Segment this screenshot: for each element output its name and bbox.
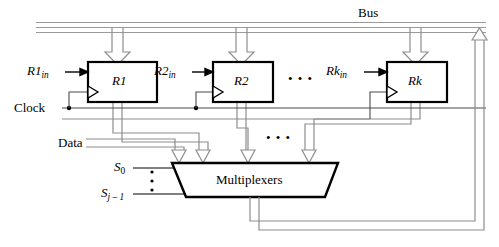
- register-r1-control-sub: in: [41, 70, 48, 80]
- mux-row-ellipsis: • • •: [266, 131, 291, 144]
- mux-input-3-arrowhead: [241, 150, 255, 163]
- rk-output-wire-b: [314, 102, 420, 152]
- bus-label: Bus: [358, 6, 378, 19]
- multiplexer-label: Multiplexers: [216, 173, 282, 186]
- clock-riser-r1: [69, 92, 88, 108]
- rk-output-wire: [305, 102, 411, 152]
- register-rk-control-label: Rkin: [326, 64, 347, 80]
- register-r1-label: R1: [112, 74, 126, 87]
- register-r2-label: R2: [234, 74, 248, 87]
- select-sj1-sub: j – 1: [108, 192, 125, 202]
- register-boxes: [88, 62, 447, 102]
- select-line-s0-label: S0: [114, 160, 125, 176]
- bus-feedback-arrowhead: [472, 28, 487, 40]
- data-input-wire: [86, 139, 184, 152]
- mux-input-1-arrowhead: [172, 150, 186, 163]
- diagram-canvas: [0, 0, 499, 247]
- select-line-sj1-label: Sj – 1: [101, 186, 124, 202]
- register-rk-label: Rk: [408, 74, 422, 87]
- register-bus-diagram: Bus R1in R2in Rkin R1 R2 Rk • • • • • • …: [0, 0, 499, 247]
- select-vertical-ellipsis-dots: [150, 170, 153, 191]
- register-row-ellipsis: • • •: [288, 72, 313, 85]
- register-rk-control-base: Rk: [326, 63, 340, 78]
- register-rk-control-sub: in: [340, 70, 347, 80]
- register-r1-control-base: R1: [27, 63, 41, 78]
- register-r1-control-label: R1in: [27, 64, 49, 80]
- bus-rail: [36, 23, 486, 33]
- register-r2-control-label: R2in: [154, 64, 176, 80]
- mux-input-2-arrowhead: [196, 150, 210, 163]
- mux-input-4-arrowhead: [302, 150, 316, 163]
- r1-output-wire: [113, 102, 199, 152]
- mux-output-wire-outer: [259, 40, 484, 230]
- register-r2-control-base: R2: [154, 63, 168, 78]
- mux-input-arrowheads: [172, 150, 316, 163]
- data-label: Data: [58, 136, 83, 149]
- clock-label: Clock: [14, 101, 45, 114]
- clock-riser-r2: [196, 92, 213, 108]
- register-r2-control-sub: in: [168, 70, 175, 80]
- clock-riser-rk: [370, 92, 387, 119]
- select-s0-sub: 0: [121, 166, 126, 176]
